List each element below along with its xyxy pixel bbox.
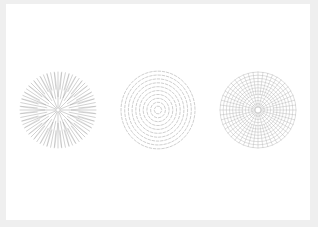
radial-grid-pattern — [220, 72, 296, 148]
image-frame — [0, 0, 318, 227]
concentric-dashes-pattern — [121, 71, 195, 149]
artwork-canvas — [0, 0, 318, 227]
radial-lines-pattern — [20, 72, 96, 148]
